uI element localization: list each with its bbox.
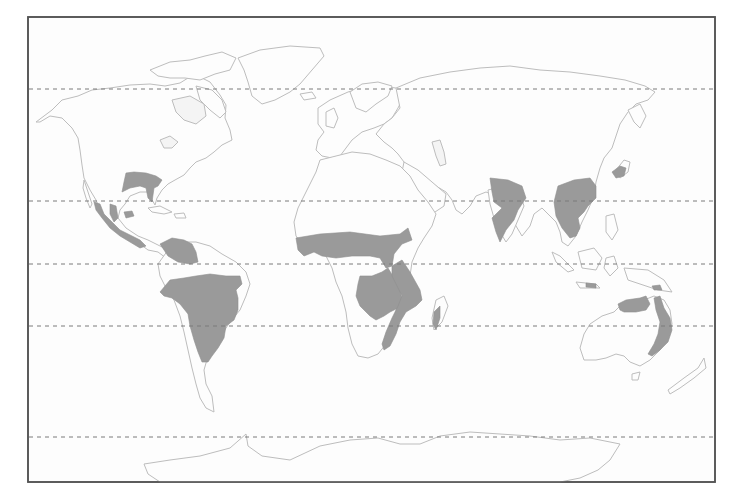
map-canvas — [0, 0, 734, 504]
region-new-guinea-south — [652, 285, 662, 290]
region-lesser-sunda — [586, 283, 596, 288]
tasmania-outline — [632, 372, 640, 380]
world-map — [0, 0, 734, 504]
hispaniola-outline — [174, 213, 186, 218]
